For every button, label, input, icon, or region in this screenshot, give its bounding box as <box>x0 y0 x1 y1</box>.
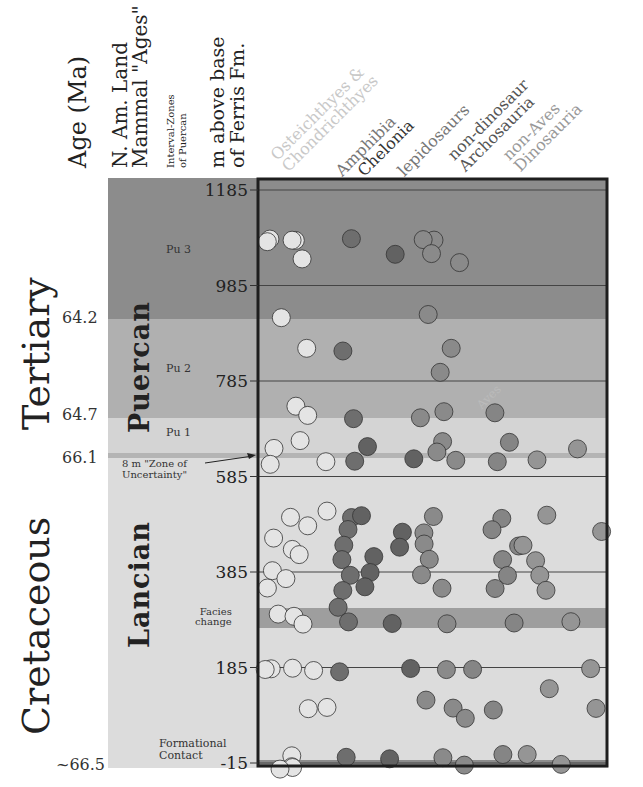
data-point <box>283 231 301 249</box>
data-point <box>261 455 279 473</box>
data-point <box>265 439 283 457</box>
y-tick-label: 985 <box>216 276 248 296</box>
data-point <box>299 700 317 718</box>
data-point <box>431 363 449 381</box>
data-point <box>433 579 451 597</box>
age-lancian: Lancian <box>124 521 155 648</box>
data-point <box>291 432 309 450</box>
data-point <box>305 662 323 680</box>
zone-uncertainty-label: 8 m "Zone of Uncertainty" <box>122 458 187 480</box>
data-point <box>337 748 355 766</box>
data-point <box>333 551 351 569</box>
data-point <box>464 660 482 678</box>
data-point <box>411 409 429 427</box>
y-tick-label: 785 <box>216 371 248 391</box>
zone-pu2: Pu 2 <box>166 362 191 375</box>
data-point <box>284 659 302 677</box>
data-point <box>293 250 311 268</box>
data-point <box>339 521 357 539</box>
data-point <box>277 570 295 588</box>
data-point <box>428 443 446 461</box>
data-point <box>540 680 558 698</box>
header-nalma: N. Am. Land Mammal "Ages" <box>110 5 150 168</box>
data-point <box>340 613 358 631</box>
data-point <box>419 306 437 324</box>
age-64-2: 64.2 <box>62 308 98 327</box>
zone-pu3: Pu 3 <box>166 243 191 256</box>
data-point <box>424 508 442 526</box>
data-point <box>299 406 317 424</box>
age-puercan: Puercan <box>124 301 155 433</box>
data-point <box>365 548 383 566</box>
data-point <box>345 410 363 428</box>
data-point <box>488 453 506 471</box>
zone-uncertainty-line1: 8 m "Zone of <box>122 458 187 469</box>
data-point <box>405 450 423 468</box>
data-point <box>318 698 336 716</box>
data-point <box>294 615 312 633</box>
data-point <box>318 502 336 520</box>
data-point <box>417 691 435 709</box>
data-point <box>456 709 474 727</box>
data-point <box>587 699 605 717</box>
header-age: Age (Ma) <box>64 56 92 168</box>
data-point <box>317 453 335 471</box>
zone-uncertainty-line2: Uncertainty" <box>122 469 187 480</box>
age-64-7: 64.7 <box>62 405 98 424</box>
data-point <box>451 254 469 272</box>
data-point <box>423 245 441 263</box>
data-point <box>391 538 409 556</box>
data-point <box>514 536 532 554</box>
data-point <box>334 342 352 360</box>
data-point <box>282 508 300 526</box>
data-point <box>383 615 401 633</box>
formational-contact-label: Formational Contact <box>159 738 227 762</box>
header-nalma-line2: Mammal "Ages" <box>130 5 150 168</box>
data-point <box>386 245 404 263</box>
data-point <box>331 663 349 681</box>
data-point <box>438 615 456 633</box>
data-point <box>342 230 360 248</box>
data-point <box>353 507 371 525</box>
header-interval: Interval-Zones of Puercan <box>165 94 189 168</box>
formational-line2: Contact <box>159 750 227 762</box>
y-tick-label: 185 <box>216 658 248 678</box>
y-tick-label: 585 <box>216 467 248 487</box>
data-point <box>552 755 570 773</box>
header-meters: m above base of Ferris Fm. <box>207 37 247 169</box>
data-point <box>258 579 276 597</box>
data-point <box>299 517 317 535</box>
facies-change-label: Facies change <box>195 607 232 627</box>
data-point <box>269 605 287 623</box>
period-tertiary: Tertiary <box>14 277 58 430</box>
data-point <box>290 546 308 564</box>
data-point <box>272 309 290 327</box>
age-66-5: ~66.5 <box>56 755 105 774</box>
facies-line2: change <box>195 617 232 627</box>
data-point <box>486 580 504 598</box>
header-meters-line1: m above base <box>207 37 227 169</box>
data-point <box>271 760 289 778</box>
data-point <box>437 661 455 679</box>
data-point <box>447 451 465 469</box>
data-point <box>582 660 600 678</box>
data-point <box>442 339 460 357</box>
data-point <box>435 403 453 421</box>
data-point <box>505 614 523 632</box>
data-point <box>528 451 546 469</box>
data-point <box>518 746 536 764</box>
data-point <box>569 440 587 458</box>
header-meters-line2: of Ferris Fm. <box>227 37 247 169</box>
data-point <box>484 701 502 719</box>
data-point <box>434 749 452 767</box>
data-point <box>334 582 352 600</box>
data-point <box>402 660 420 678</box>
data-point <box>359 438 377 456</box>
header-nalma-line1: N. Am. Land <box>110 5 130 168</box>
data-point <box>538 506 556 524</box>
data-point <box>413 566 431 584</box>
data-point <box>298 339 316 357</box>
data-point <box>265 529 283 547</box>
header-interval-line2: of Puercan <box>177 94 189 168</box>
y-tick-label: 385 <box>216 562 248 582</box>
